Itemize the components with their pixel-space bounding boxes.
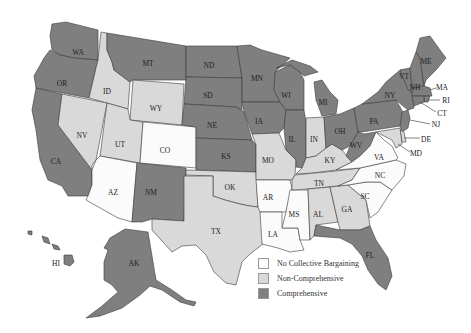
label-WV: WV	[350, 141, 363, 150]
label-WY: WY	[150, 104, 163, 113]
legend-label-comp: Comprehensive	[277, 289, 327, 298]
label-NM: NM	[145, 188, 157, 197]
label-MD: MD	[410, 149, 423, 158]
label-MT: MT	[142, 59, 154, 68]
label-PA: PA	[370, 117, 379, 126]
label-WI: WI	[281, 91, 291, 100]
label-OH: OH	[335, 127, 346, 136]
label-AK: AK	[129, 259, 140, 268]
label-UT: UT	[115, 140, 125, 149]
label-KY: KY	[325, 156, 336, 165]
label-ND: ND	[204, 61, 215, 70]
callout-MD	[398, 144, 410, 152]
label-ME: ME	[420, 57, 432, 66]
label-AR: AR	[263, 193, 273, 202]
legend-label-none: No Collective Bargaining	[277, 259, 359, 268]
label-MI: MI	[318, 98, 328, 107]
label-CA: CA	[51, 157, 62, 166]
label-CT: CT	[437, 109, 447, 118]
label-ID: ID	[103, 87, 111, 96]
label-AL: AL	[313, 210, 323, 219]
label-LA: LA	[268, 230, 279, 239]
label-TN: TN	[314, 179, 325, 188]
label-IL: IL	[288, 135, 295, 144]
state-HI-3	[52, 244, 60, 250]
legend-label-non: Non-Comprehensive	[277, 274, 344, 283]
legend-item-comp: Comprehensive	[258, 286, 359, 301]
label-VA: VA	[374, 153, 384, 162]
label-VT: VT	[399, 72, 409, 81]
state-NM	[132, 163, 186, 222]
label-NJ: NJ	[432, 120, 440, 129]
state-WY	[130, 80, 184, 125]
label-MO: MO	[262, 156, 275, 165]
label-NY: NY	[385, 91, 396, 100]
label-NH: NH	[410, 83, 421, 92]
label-NE: NE	[207, 121, 217, 130]
legend-swatch-none	[258, 258, 269, 269]
callout-NJ	[410, 120, 430, 124]
label-OK: OK	[225, 183, 236, 192]
label-MS: MS	[289, 210, 300, 219]
label-GA: GA	[342, 205, 353, 214]
state-HI-2	[42, 236, 50, 244]
state-HI-4	[28, 231, 32, 235]
us-map: WA OR CA ID NV MT WY UT CO AZ NM ND SD N…	[0, 0, 471, 333]
legend: No Collective Bargaining Non-Comprehensi…	[258, 256, 359, 301]
state-CT	[412, 96, 424, 106]
label-SC: SC	[360, 192, 369, 201]
label-HI: HI	[52, 259, 60, 268]
legend-item-none: No Collective Bargaining	[258, 256, 359, 271]
label-WA: WA	[72, 48, 84, 57]
label-MN: MN	[251, 74, 264, 83]
label-SD: SD	[203, 91, 213, 100]
legend-item-non: Non-Comprehensive	[258, 271, 359, 286]
label-RI: RI	[442, 96, 450, 105]
label-NC: NC	[375, 171, 385, 180]
callout-CT	[420, 102, 436, 112]
label-OR: OR	[57, 79, 67, 88]
label-MA: MA	[436, 83, 449, 92]
label-FL: FL	[366, 251, 375, 260]
label-DE: DE	[421, 135, 431, 144]
state-HI	[64, 255, 74, 266]
label-NV: NV	[77, 131, 88, 140]
state-PA	[354, 100, 404, 132]
label-CO: CO	[160, 146, 171, 155]
state-RI	[424, 96, 430, 102]
label-IN: IN	[310, 135, 318, 144]
label-KS: KS	[221, 152, 231, 161]
legend-swatch-comp	[258, 288, 269, 299]
label-TX: TX	[211, 227, 222, 236]
legend-swatch-non	[258, 273, 269, 284]
label-IA: IA	[255, 117, 263, 126]
label-AZ: AZ	[108, 188, 118, 197]
